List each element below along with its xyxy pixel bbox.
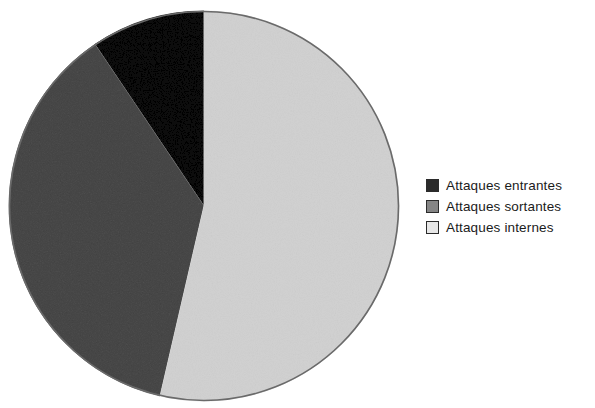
pie-chart-figure: Attaques entrantes Attaques sortantes At… xyxy=(0,0,595,408)
pie-chart-plot-area xyxy=(6,8,402,404)
legend-label-attaques-internes: Attaques internes xyxy=(446,220,554,235)
legend-swatch-attaques-sortantes xyxy=(426,200,439,213)
legend-item-attaques-entrantes: Attaques entrantes xyxy=(426,175,595,196)
pie-chart-svg xyxy=(6,8,402,404)
chart-legend: Attaques entrantes Attaques sortantes At… xyxy=(426,175,595,238)
legend-item-attaques-internes: Attaques internes xyxy=(426,217,595,238)
legend-swatch-attaques-internes xyxy=(426,221,439,234)
legend-item-attaques-sortantes: Attaques sortantes xyxy=(426,196,595,217)
legend-swatch-attaques-entrantes xyxy=(426,179,439,192)
legend-label-attaques-entrantes: Attaques entrantes xyxy=(446,178,562,193)
legend-label-attaques-sortantes: Attaques sortantes xyxy=(446,199,561,214)
